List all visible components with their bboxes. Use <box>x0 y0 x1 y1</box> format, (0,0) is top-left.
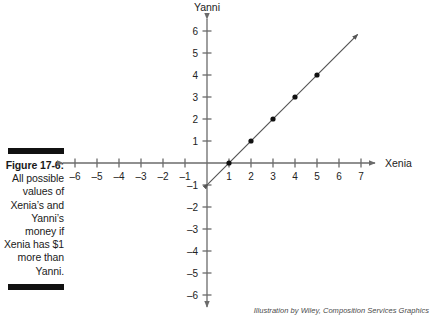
x-axis-label: Xenia <box>385 157 412 169</box>
y-axis-tick-label: –5 <box>187 268 199 279</box>
x-axis-tick-label: –2 <box>157 171 169 182</box>
y-axis-tick-label: –2 <box>187 202 199 213</box>
x-axis-tick-label: –6 <box>69 171 81 182</box>
x-axis-tick-label: –4 <box>113 171 125 182</box>
x-axis-tick-label: 5 <box>314 171 320 182</box>
y-axis-tick-label: 4 <box>192 70 198 81</box>
x-axis-tick-label: 3 <box>270 171 276 182</box>
y-axis-tick-label: –3 <box>187 224 199 235</box>
x-axis-tick-label: 6 <box>336 171 342 182</box>
x-axis-tick-label: 4 <box>292 171 298 182</box>
y-axis-tick-label: 1 <box>192 136 198 147</box>
figure-container: Figure 17-6: All possible values of Xeni… <box>0 0 435 326</box>
x-axis-tick-label: –3 <box>135 171 147 182</box>
x-axis-tick-label: 7 <box>358 171 364 182</box>
x-axis-tick-label: 1 <box>226 171 232 182</box>
data-point <box>314 72 319 77</box>
y-axis-tick-label: 3 <box>192 92 198 103</box>
data-point <box>248 138 253 143</box>
coordinate-graph: –6–5–4–3–2–11234567654321–1–2–3–4–5–6Xen… <box>55 0 435 310</box>
data-point <box>270 116 275 121</box>
y-axis-tick-label: 6 <box>192 26 198 37</box>
graph-svg: –6–5–4–3–2–11234567654321–1–2–3–4–5–6Xen… <box>55 0 435 310</box>
y-axis-tick-label: 5 <box>192 48 198 59</box>
attribution-text: Illustration by Wiley, Composition Servi… <box>254 306 429 315</box>
x-axis-tick-label: –5 <box>91 171 103 182</box>
data-point <box>226 160 231 165</box>
data-point <box>292 94 297 99</box>
y-axis-tick-label: 2 <box>192 114 198 125</box>
y-axis-tick-label: –1 <box>187 180 199 191</box>
y-axis-tick-label: –6 <box>187 290 199 301</box>
y-axis-label: Yanni <box>194 1 220 13</box>
y-axis-tick-label: –4 <box>187 246 199 257</box>
x-axis-tick-label: 2 <box>248 171 254 182</box>
